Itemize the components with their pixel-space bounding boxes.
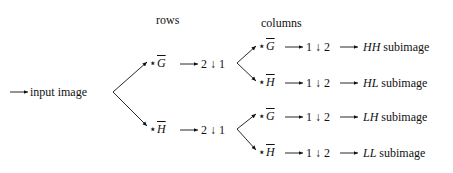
rows-header: rows	[156, 13, 179, 27]
col-filter-1: ⋆G	[258, 39, 275, 53]
row-filter-g: ⋆G	[149, 56, 166, 70]
output-lh: LH subimage	[363, 110, 427, 124]
col-filter-3: ⋆G	[258, 109, 275, 123]
row-filter-h: ⋆H	[149, 122, 166, 136]
output-ll: LL subimage	[363, 146, 425, 160]
row-downsample-2: 2 ↓ 1	[201, 123, 225, 137]
col-downsample-2: 1 ↓ 2	[306, 76, 330, 90]
col-downsample-1: 1 ↓ 2	[306, 40, 330, 54]
output-hl: HL subimage	[363, 76, 427, 90]
input-image-label: input image	[30, 85, 87, 99]
output-hh: HH subimage	[363, 40, 429, 54]
col-filter-2: ⋆H	[258, 75, 275, 89]
columns-header: columns	[261, 16, 302, 30]
col-downsample-4: 1 ↓ 2	[306, 146, 330, 160]
col-filter-4: ⋆H	[258, 145, 275, 159]
col-downsample-3: 1 ↓ 2	[306, 110, 330, 124]
row-downsample-1: 2 ↓ 1	[201, 57, 225, 71]
